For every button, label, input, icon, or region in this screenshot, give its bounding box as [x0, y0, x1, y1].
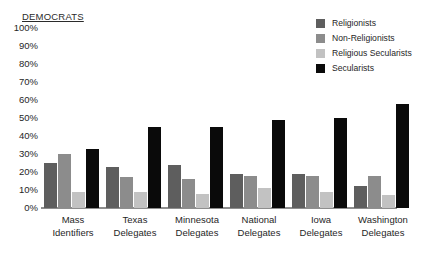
legend-item-label: Religious Secularists [332, 47, 412, 60]
chart-legend: ReligionistsNon-ReligionistsReligious Se… [316, 17, 442, 77]
bar [396, 104, 409, 208]
bar [334, 118, 347, 208]
bar [244, 176, 257, 208]
bar [230, 174, 243, 208]
legend-item-label: Non-Religionists [332, 32, 395, 45]
legend-swatch-icon [316, 64, 325, 73]
bar [382, 195, 395, 208]
bar [182, 179, 195, 208]
bar [306, 176, 319, 208]
bar-group [168, 28, 226, 208]
legend-item: Religionists [316, 17, 442, 31]
bar [258, 188, 271, 208]
bar [148, 127, 161, 208]
x-axis-category-label: WashingtonDelegates [344, 213, 422, 239]
y-axis-tick-label: 40% [0, 131, 38, 141]
legend-item: Religious Secularists [316, 47, 442, 61]
bar [134, 192, 147, 208]
bar [44, 163, 57, 208]
x-axis-category-labels: MassIdentifiersTexasDelegatesMinnesotaDe… [44, 213, 404, 257]
legend-item-label: Religionists [332, 17, 376, 30]
bar [72, 192, 85, 208]
bar-group [230, 28, 288, 208]
bar [86, 149, 99, 208]
democrats-bar-chart: DEMOCRATS 100%90%80%70%60%50%40%30%20%10… [0, 0, 443, 257]
y-axis-tick-label: 60% [0, 95, 38, 105]
y-axis-tick-label: 90% [0, 41, 38, 51]
bar [354, 186, 367, 208]
y-axis-tick-label: 100% [0, 23, 38, 33]
bar [320, 192, 333, 208]
y-axis-tick-label: 70% [0, 77, 38, 87]
bar [196, 194, 209, 208]
y-axis-tick-label: 50% [0, 113, 38, 123]
bar [58, 154, 71, 208]
bar [210, 127, 223, 208]
bar [120, 177, 133, 208]
y-axis-tick-label: 80% [0, 59, 38, 69]
y-axis-tick-label: 10% [0, 185, 38, 195]
legend-swatch-icon [316, 49, 325, 58]
bar [292, 174, 305, 208]
legend-item: Non-Religionists [316, 32, 442, 46]
y-axis-tick-label: 30% [0, 149, 38, 159]
legend-swatch-icon [316, 34, 325, 43]
legend-item-label: Secularists [332, 62, 374, 75]
y-axis-tick-label: 0% [0, 203, 38, 213]
bar-group [44, 28, 102, 208]
y-axis-tick-label: 20% [0, 167, 38, 177]
legend-swatch-icon [316, 19, 325, 28]
bar [106, 167, 119, 208]
bar [368, 176, 381, 208]
bar-group [106, 28, 164, 208]
bar [168, 165, 181, 208]
legend-item: Secularists [316, 62, 442, 76]
bar [272, 120, 285, 208]
